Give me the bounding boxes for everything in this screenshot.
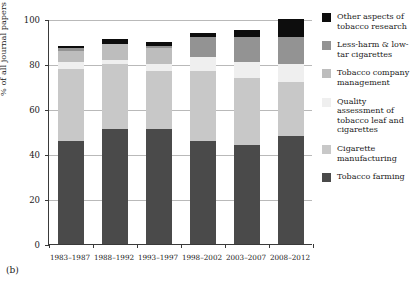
bar-segment xyxy=(190,37,216,57)
bar-segment xyxy=(234,37,260,62)
x-tick-mark xyxy=(49,244,50,248)
x-tick-label: 2008–2012 xyxy=(259,254,321,262)
bar-segment xyxy=(58,141,84,245)
legend-swatch-icon xyxy=(322,41,331,50)
y-tick-mark-0 xyxy=(45,245,49,246)
legend-item: Less-harm & low-tar cigarettes xyxy=(322,40,415,59)
y-tick-label: 80 xyxy=(6,61,40,70)
y-tick-label: 60 xyxy=(6,106,40,115)
legend-item: Tobacco farming xyxy=(322,172,415,182)
bar-column xyxy=(146,42,172,245)
bar-segment xyxy=(146,64,172,71)
stacked-bar-chart: 020406080100 1983–19871988–19921993–1997… xyxy=(0,0,415,281)
x-tick-mark xyxy=(181,244,182,248)
y-tick-label: 0 xyxy=(6,241,40,250)
y-tick-label: 20 xyxy=(6,196,40,205)
legend-label: Tobacco company management xyxy=(337,68,415,87)
bar-column xyxy=(58,46,84,244)
y-tick-mark-60 xyxy=(45,110,49,111)
legend-swatch-icon xyxy=(322,13,331,22)
legend-swatch-icon xyxy=(322,145,331,154)
bar-segment xyxy=(146,48,172,64)
plot-area xyxy=(48,20,312,245)
y-tick-label: 100 xyxy=(6,16,40,25)
legend-label: Tobacco farming xyxy=(337,172,405,182)
legend-label: Less-harm & low-tar cigarettes xyxy=(337,40,415,59)
x-tick-mark xyxy=(93,244,94,248)
legend-label: Cigarette manufacturing xyxy=(337,144,415,163)
bar-segment xyxy=(102,44,128,60)
bar-segment xyxy=(234,145,260,244)
bar-column xyxy=(102,39,128,244)
bar-segment xyxy=(58,69,84,141)
bar-segment xyxy=(102,64,128,129)
x-tick-mark xyxy=(313,244,314,248)
bars-layer xyxy=(49,20,312,244)
bar-segment xyxy=(190,141,216,245)
bar-segment xyxy=(234,30,260,37)
legend-item: Cigarette manufacturing xyxy=(322,144,415,163)
bar-segment xyxy=(58,62,84,69)
bar-column xyxy=(234,30,260,244)
y-tick-mark-40 xyxy=(45,155,49,156)
bar-segment xyxy=(278,19,304,37)
bar-segment xyxy=(278,82,304,136)
legend-label: Other aspects of tobacco research xyxy=(337,12,415,31)
bar-segment xyxy=(146,129,172,244)
y-axis-title: % of all journal papers xyxy=(0,2,8,96)
bar-column xyxy=(278,19,304,244)
legend-swatch-icon xyxy=(322,98,331,107)
bar-segment xyxy=(278,136,304,244)
legend-swatch-icon xyxy=(322,69,331,78)
bar-segment xyxy=(190,71,216,141)
y-tick-mark-80 xyxy=(45,65,49,66)
bar-column xyxy=(190,33,216,245)
legend-item: Tobacco company management xyxy=(322,68,415,87)
bar-segment xyxy=(234,78,260,146)
panel-label: (b) xyxy=(6,265,19,275)
legend-swatch-icon xyxy=(322,173,331,182)
x-tick-mark xyxy=(269,244,270,248)
legend-label: Quality assessment of tobacco leaf and c… xyxy=(337,97,415,135)
legend: Other aspects of tobacco researchLess-ha… xyxy=(322,12,415,191)
legend-item: Quality assessment of tobacco leaf and c… xyxy=(322,97,415,135)
y-tick-label: 40 xyxy=(6,151,40,160)
bar-segment xyxy=(58,51,84,62)
bar-segment xyxy=(278,64,304,82)
x-tick-mark xyxy=(225,244,226,248)
bar-segment xyxy=(190,57,216,71)
legend-item: Other aspects of tobacco research xyxy=(322,12,415,31)
bar-segment xyxy=(278,37,304,64)
x-tick-mark xyxy=(137,244,138,248)
y-tick-mark-20 xyxy=(45,200,49,201)
bar-segment xyxy=(234,62,260,78)
y-tick-mark-100 xyxy=(45,20,49,21)
bar-segment xyxy=(146,71,172,130)
bar-segment xyxy=(102,129,128,244)
